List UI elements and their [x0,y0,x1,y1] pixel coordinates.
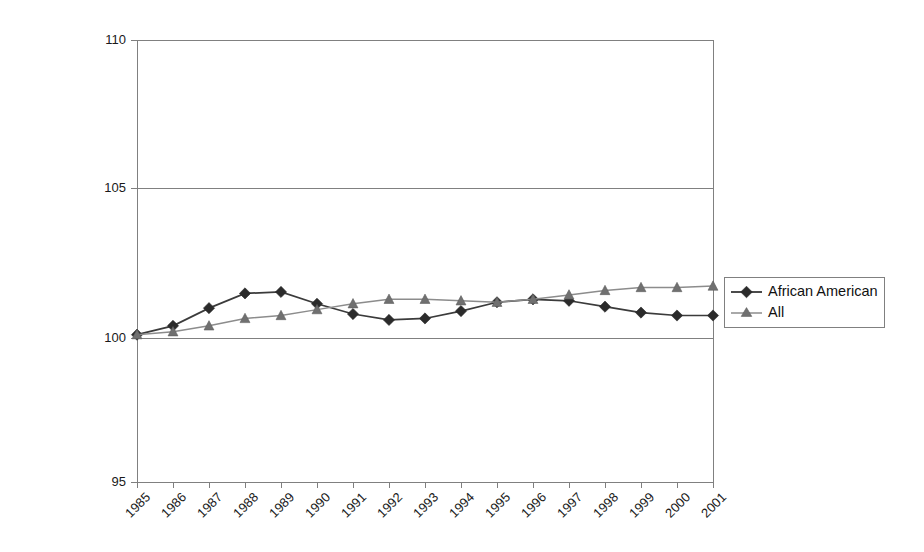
legend-label-all: All [768,304,784,320]
xtick-label-1988: 1988 [230,490,261,521]
xtick-label-2001: 2001 [698,490,729,521]
y-tick-marks [131,40,137,482]
data-point-african-american-1989 [275,286,286,297]
line-chart: 110 105 100 95 1985198619871988198919901… [0,0,924,552]
xtick-label-1989: 1989 [266,490,297,521]
ytick-label-105: 105 [104,180,126,195]
data-point-african-american-1987 [203,303,214,314]
ytick-label-110: 110 [105,32,126,47]
y-axis-labels: 110 105 100 95 [104,32,126,489]
chart-legend: African American All [724,277,884,327]
ytick-label-95: 95 [112,474,126,489]
xtick-label-1990: 1990 [302,490,333,521]
xtick-label-1995: 1995 [482,490,513,521]
xtick-label-2000: 2000 [662,490,693,521]
data-point-african-american-2000 [671,310,682,321]
legend-label-african-american: African American [768,283,878,299]
xtick-label-1999: 1999 [626,490,657,521]
xtick-label-1994: 1994 [446,490,477,521]
xtick-label-1986: 1986 [158,490,189,521]
data-point-african-american-1998 [599,301,610,312]
xtick-label-1997: 1997 [554,490,585,521]
data-point-african-american-1992 [383,314,394,325]
grid-group [137,40,713,482]
data-point-african-american-1994 [455,305,466,316]
x-axis-labels: 1985198619871988198919901991199219931994… [122,482,729,521]
data-point-african-american-2001 [707,310,718,321]
xtick-label-1998: 1998 [590,490,621,521]
xtick-label-1991: 1991 [338,490,369,521]
xtick-label-1987: 1987 [194,490,225,521]
xtick-label-1993: 1993 [410,490,441,521]
data-point-african-american-1988 [239,288,250,299]
data-point-african-american-1991 [347,308,358,319]
xtick-label-1992: 1992 [374,490,405,521]
series-group [131,281,718,340]
ytick-label-100: 100 [104,330,126,345]
data-point-african-american-1993 [419,313,430,324]
xtick-label-1996: 1996 [518,490,549,521]
xtick-label-1985: 1985 [122,490,153,521]
chart-canvas: 110 105 100 95 1985198619871988198919901… [0,0,924,552]
data-point-african-american-1999 [635,307,646,318]
